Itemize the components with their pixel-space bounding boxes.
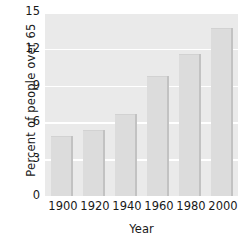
gridline-9 (45, 86, 238, 88)
y-tick-label: 0 (18, 190, 40, 202)
bar-chart-figure: Percent of people over 65 15 12 9 6 3 0 … (0, 0, 242, 245)
y-tick-label: 9 (18, 80, 40, 92)
gridline-6 (45, 122, 238, 124)
y-tick-label: 12 (18, 43, 40, 55)
x-axis-tick-labels: 1900 1920 1940 1960 1980 2000 (45, 199, 238, 217)
y-tick-label: 3 (18, 153, 40, 165)
x-tick-label: 1940 (112, 199, 141, 213)
x-tick-label: 1960 (144, 199, 173, 213)
x-tick-label: 1920 (80, 199, 109, 213)
plot-area (45, 12, 238, 196)
y-tick-label: 15 (18, 6, 40, 18)
gridline-12 (45, 49, 238, 51)
bar-1900 (51, 136, 73, 196)
bar-top-edge (147, 76, 167, 77)
bar-1920 (83, 130, 105, 196)
y-tick-label: 6 (18, 117, 40, 129)
x-axis-title: Year (45, 222, 238, 236)
bar-2000 (211, 28, 233, 196)
bar-top-edge (51, 136, 71, 137)
x-tick-label: 1900 (48, 199, 77, 213)
x-tick-label: 1980 (176, 199, 205, 213)
bar-1980 (179, 54, 201, 196)
bar-1940 (115, 114, 137, 196)
bar-top-edge (179, 54, 199, 55)
bar-top-edge (115, 114, 135, 115)
bar-top-edge (211, 28, 231, 29)
bar-top-edge (83, 130, 103, 131)
bar-1960 (147, 76, 169, 196)
gridline-15 (45, 12, 238, 14)
x-tick-label: 2000 (208, 199, 237, 213)
y-axis-tick-labels: 15 12 9 6 3 0 (18, 0, 40, 245)
gridline-3 (45, 159, 238, 161)
